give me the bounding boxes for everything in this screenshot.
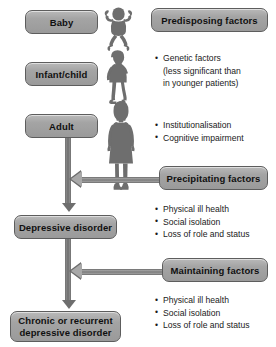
factor-list-precipitating: Institutionalisation Cognitive impairmen… (155, 119, 244, 144)
outcome-box-chronic-recurrent-label-line2: depressive disorder (19, 327, 111, 339)
outcome-box-depressive-disorder-label: Depressive disorder (19, 222, 112, 233)
factor-list-maintaining: Physical ill health Social isolation Los… (155, 203, 249, 241)
factor-arrow-head-precipitating (71, 171, 82, 187)
list-item: Physical ill health (155, 294, 249, 307)
flow-arrowhead-depressive (62, 203, 76, 212)
baby-silhouette-icon (100, 4, 136, 52)
list-item: Genetic factors (155, 52, 241, 65)
list-item: Cognitive impairment (155, 132, 244, 145)
factor-box-precipitating[interactable]: Precipitating factors (159, 166, 268, 190)
stage-box-adult[interactable]: Adult (25, 114, 98, 138)
outcome-box-chronic-recurrent-label-line1: Chronic or recurrent (18, 315, 112, 327)
factor-box-predisposing-label: Predisposing factors (161, 15, 258, 26)
stage-box-baby[interactable]: Baby (25, 10, 98, 34)
aetiology-flow-diagram: Baby Infant/child Adult (0, 0, 276, 347)
outcome-box-chronic-recurrent[interactable]: Chronic or recurrent depressive disorder (10, 311, 121, 342)
factor-list-predisposing: Genetic factors (less significant than i… (155, 52, 241, 90)
factor-arrow-head-maintaining (71, 263, 82, 279)
outcome-box-depressive-disorder[interactable]: Depressive disorder (14, 215, 117, 239)
factor-box-maintaining-label: Maintaining factors (171, 265, 260, 276)
flow-arrowhead-chronic (62, 300, 76, 309)
list-item: (less significant than (155, 65, 241, 78)
factor-box-precipitating-label: Precipitating factors (167, 173, 261, 184)
list-item: Loss of role and status (155, 319, 249, 332)
factor-arrow-line-maintaining (81, 269, 162, 275)
factor-box-maintaining[interactable]: Maintaining factors (162, 258, 268, 282)
list-item: Social isolation (155, 307, 249, 320)
list-item: in younger patients) (155, 77, 241, 90)
stage-box-infant-child-label: Infant/child (36, 69, 88, 80)
factor-list-outcome: Physical ill health Social isolation Los… (155, 294, 249, 332)
child-silhouette-icon (101, 48, 135, 105)
stage-box-infant-child[interactable]: Infant/child (25, 62, 98, 86)
list-item: Social isolation (155, 216, 249, 229)
stage-box-adult-label: Adult (49, 121, 74, 132)
factor-arrow-line-precipitating (81, 177, 162, 183)
list-item: Physical ill health (155, 203, 249, 216)
list-item: Loss of role and status (155, 228, 249, 241)
factor-box-predisposing[interactable]: Predisposing factors (151, 8, 268, 32)
stage-box-baby-label: Baby (50, 17, 74, 28)
list-item: Institutionalisation (155, 119, 244, 132)
